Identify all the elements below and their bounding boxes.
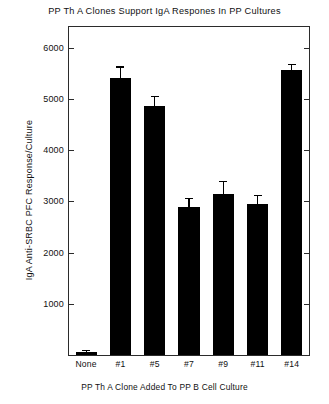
error-bar-cap [288, 64, 296, 65]
error-bar-cap [254, 195, 262, 196]
x-axis-tick-label: #11 [240, 359, 274, 369]
error-bar-cap [185, 198, 193, 199]
x-axis-tick-label: #1 [103, 359, 137, 369]
bar-clone-5[interactable] [144, 106, 165, 355]
y-axis-tick-label: 4000 [10, 145, 64, 155]
error-bar-stem [257, 195, 258, 204]
error-bar-stem [154, 96, 155, 106]
error-bar-cap [82, 350, 90, 351]
bar-group[interactable] [213, 27, 234, 355]
bar-group[interactable] [247, 27, 268, 355]
x-axis-tick-label: #5 [138, 359, 172, 369]
y-axis-tick-label: 5000 [10, 94, 64, 104]
x-axis-tick-label: #7 [172, 359, 206, 369]
error-bar-stem [120, 66, 121, 78]
bar-group[interactable] [281, 27, 302, 355]
error-bar-stem [188, 198, 189, 208]
y-axis-tick-label: 6000 [10, 43, 64, 53]
bar-clone-14[interactable] [281, 70, 302, 355]
bar-group[interactable] [76, 27, 97, 355]
bar-chart-figure: PP Th A Clones Support IgA Respones In P… [0, 0, 329, 404]
x-axis-tick-label: None [69, 359, 103, 369]
error-bar-cap [116, 66, 124, 67]
x-axis-title: PP Th A Clone Added To PP B Cell Culture [0, 382, 329, 392]
error-bar-stem [223, 181, 224, 194]
y-axis-tick-label: 3000 [10, 196, 64, 206]
bar-group[interactable] [110, 27, 131, 355]
bar-clone-9[interactable] [213, 194, 234, 355]
chart-title: PP Th A Clones Support IgA Respones In P… [0, 6, 329, 16]
bar-clone-7[interactable] [178, 207, 199, 355]
y-axis-tick-label: 2000 [10, 248, 64, 258]
bar-None[interactable] [76, 352, 97, 355]
y-axis-tick-label: 1000 [10, 299, 64, 309]
error-bar-cap [151, 96, 159, 97]
bars-layer [69, 27, 309, 355]
x-axis-tick-label: #14 [275, 359, 309, 369]
x-axis-tick-label: #9 [206, 359, 240, 369]
bar-group[interactable] [178, 27, 199, 355]
bar-clone-1[interactable] [110, 78, 131, 355]
bar-clone-11[interactable] [247, 204, 268, 355]
error-bar-cap [219, 181, 227, 182]
bar-group[interactable] [144, 27, 165, 355]
